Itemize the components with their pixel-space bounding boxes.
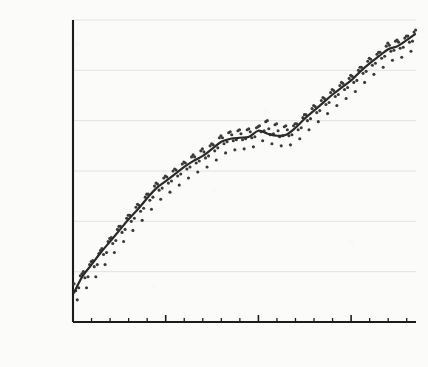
scatter-point bbox=[202, 150, 205, 153]
scatter-point bbox=[187, 177, 190, 180]
scatter-point bbox=[372, 73, 375, 76]
scatter-point bbox=[198, 159, 201, 162]
scatter-point bbox=[408, 41, 411, 44]
scatter-point bbox=[275, 122, 278, 125]
scatter-point bbox=[389, 50, 392, 53]
scatter-point bbox=[289, 143, 292, 146]
scatter-point bbox=[345, 97, 348, 100]
scatter-point bbox=[86, 275, 89, 278]
scatter-point bbox=[286, 128, 289, 131]
scatter-point bbox=[124, 228, 127, 231]
scatter-point bbox=[335, 104, 338, 107]
scatter-point bbox=[371, 64, 374, 67]
scatter-point bbox=[315, 111, 318, 114]
scatter-point bbox=[329, 91, 332, 94]
scatter-point bbox=[159, 198, 162, 201]
scatter-point bbox=[148, 199, 151, 202]
scatter-point bbox=[280, 144, 283, 147]
scatter-point bbox=[380, 57, 383, 60]
scatter-point bbox=[170, 180, 173, 183]
scatter-point bbox=[96, 263, 99, 266]
scatter-point bbox=[113, 251, 116, 254]
scatter-point bbox=[73, 282, 76, 285]
scatter-point bbox=[233, 148, 236, 151]
scatter-point bbox=[229, 130, 232, 133]
scatter-point bbox=[168, 191, 171, 194]
scatter-point bbox=[204, 156, 207, 159]
scatter-point bbox=[206, 165, 209, 168]
scatter-point bbox=[193, 155, 196, 158]
scatter-point bbox=[348, 77, 351, 80]
scatter-point bbox=[83, 276, 86, 279]
scatter-point bbox=[400, 56, 403, 59]
scatter-point bbox=[158, 189, 161, 192]
scatter-point bbox=[306, 119, 309, 122]
scatter-point bbox=[382, 66, 385, 69]
scatter-point bbox=[76, 298, 79, 301]
chart-plot-area bbox=[0, 0, 428, 367]
scatter-point bbox=[247, 127, 250, 130]
scatter-point bbox=[134, 206, 137, 209]
scatter-point bbox=[406, 35, 409, 38]
scatter-point bbox=[178, 184, 181, 187]
scatter-point bbox=[215, 158, 218, 161]
scatter-point bbox=[221, 136, 224, 139]
scatter-point bbox=[196, 170, 199, 173]
scatter-point bbox=[261, 139, 264, 142]
scatter-point bbox=[216, 146, 219, 149]
scatter-point bbox=[105, 251, 108, 254]
scatter-point bbox=[185, 167, 188, 170]
scatter-point bbox=[334, 95, 337, 98]
scatter-point bbox=[266, 119, 269, 122]
scatter-point bbox=[411, 40, 414, 43]
scatter-point bbox=[399, 47, 402, 50]
scatter-point bbox=[355, 79, 358, 82]
scatter-point bbox=[222, 142, 225, 145]
scatter-point bbox=[224, 151, 227, 154]
scatter-point bbox=[388, 44, 391, 47]
scatter-point bbox=[337, 93, 340, 96]
scatter-point bbox=[284, 124, 287, 127]
scatter-point bbox=[153, 185, 156, 188]
scatter-point bbox=[195, 161, 198, 164]
scatter-point bbox=[307, 128, 310, 131]
scatter-point bbox=[207, 154, 210, 157]
scatter-point bbox=[362, 72, 365, 75]
scatter-point bbox=[139, 210, 142, 213]
scatter-point bbox=[320, 99, 323, 102]
scatter-point bbox=[238, 128, 241, 131]
scatter-point bbox=[391, 59, 394, 62]
scatter-point bbox=[142, 207, 145, 210]
scatter-point bbox=[102, 253, 105, 256]
scatter-point bbox=[201, 147, 204, 150]
scatter-point bbox=[122, 240, 125, 243]
scatter-point bbox=[326, 112, 329, 115]
scatter-point bbox=[161, 187, 164, 190]
scatter-point bbox=[104, 263, 107, 266]
scatter-point bbox=[93, 265, 96, 268]
scatter-point bbox=[366, 60, 369, 63]
scatter-point bbox=[402, 46, 405, 49]
scatter-point bbox=[352, 81, 355, 84]
scatter-point bbox=[385, 45, 388, 48]
scatter-point bbox=[151, 196, 154, 199]
scatter-point bbox=[409, 50, 412, 53]
scatter-point bbox=[324, 103, 327, 106]
scatter-point bbox=[85, 286, 88, 289]
scatter-point bbox=[133, 217, 136, 220]
scatter-point bbox=[131, 229, 134, 232]
scatter-point bbox=[130, 220, 133, 223]
scatter-point bbox=[374, 62, 377, 65]
scatter-point bbox=[311, 107, 314, 110]
scatter-point bbox=[338, 84, 341, 87]
scatter-point bbox=[232, 139, 235, 142]
scatter-point bbox=[167, 182, 170, 185]
scatter-point bbox=[290, 133, 293, 136]
scatter-point bbox=[184, 161, 187, 164]
scatter-point bbox=[179, 172, 182, 175]
scatter-point bbox=[176, 174, 179, 177]
scatter-point bbox=[213, 149, 216, 152]
scatter-point bbox=[298, 137, 301, 140]
scatter-point bbox=[114, 239, 117, 242]
scatter-point bbox=[309, 117, 312, 120]
